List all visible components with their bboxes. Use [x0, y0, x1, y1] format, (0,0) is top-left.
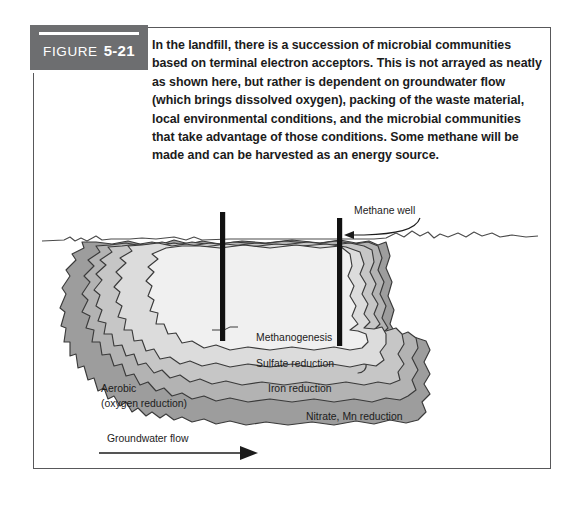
figure-caption: In the landfill, there is a succession o… [152, 36, 544, 165]
figure-tag-inner: FIGURE 5-21 [43, 42, 135, 59]
groundwater-flow-arrowhead [240, 446, 258, 460]
figure-root: FIGURE 5-21 In the landfill, there is a … [0, 0, 585, 516]
groundwater-flow-label: Groundwater flow [107, 433, 189, 444]
methane-well-label: Methane well [354, 205, 415, 216]
zone-label-sulfate-reduction: Sulfate reduction [256, 358, 334, 369]
figure-tag-top-rule [39, 32, 139, 35]
aerobic-label-line2: (oxygen reduction) [101, 398, 187, 409]
figure-tag-bottom-rule [30, 70, 148, 73]
zone-label-methanogenesis: Methanogenesis [256, 332, 332, 343]
methane-well-arrowhead [344, 231, 354, 239]
zone-label-nitrate-mn-reduction: Nitrate, Mn reduction [306, 411, 403, 422]
well-right[interactable] [337, 218, 342, 346]
figure-tag-number: 5-21 [104, 42, 135, 59]
well-left[interactable] [220, 212, 225, 341]
ground-surface-line [42, 231, 538, 241]
aerobic-label-line1: Aerobic [101, 383, 136, 394]
figure-tag-word: FIGURE [43, 44, 98, 59]
zone-label-iron-reduction: Iron reduction [268, 383, 332, 394]
figure-tag: FIGURE 5-21 [30, 25, 148, 70]
